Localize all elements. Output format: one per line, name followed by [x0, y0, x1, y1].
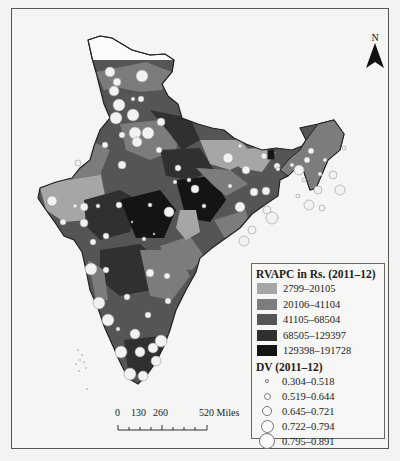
scale-tick-130: 130	[131, 407, 146, 418]
map-legend: RVAPC in Rs. (2011–12) 2799–20105 20106–…	[251, 263, 385, 439]
legend-symbol-4: 0.722–0.794	[256, 419, 380, 434]
legend-symbol-label: 0.304–0.518	[282, 376, 335, 387]
region-sikkim	[268, 150, 274, 159]
legend-symbol-1: 0.304–0.518	[256, 374, 380, 389]
scale-tick-0: 0	[115, 407, 120, 418]
legend-class-label: 2799–20105	[283, 283, 336, 294]
symbol-legend-title: DV (2011–12)	[256, 360, 380, 374]
legend-class-3: 41105–68504	[256, 312, 380, 328]
legend-swatch	[257, 345, 277, 356]
legend-class-4: 68505–129397	[256, 328, 380, 344]
legend-class-label: 20106–41104	[283, 299, 340, 310]
legend-class-1: 2799–20105	[256, 281, 380, 297]
legend-symbol-2: 0.519–0.644	[256, 389, 380, 404]
lakshadweep-islands	[75, 349, 88, 390]
legend-class-5: 129398–191728	[256, 343, 380, 359]
scale-tick-260: 260	[153, 407, 168, 418]
legend-class-label: 41105–68504	[283, 314, 340, 325]
legend-class-2: 20106–41104	[256, 297, 380, 313]
scale-bar: 0 130 260 520 Miles	[115, 407, 225, 419]
north-arrow: N	[363, 33, 387, 73]
legend-symbol-label: 0.722–0.794	[282, 421, 335, 432]
north-label: N	[363, 33, 387, 43]
legend-symbol-label: 0.519–0.644	[282, 391, 335, 402]
legend-symbol-label: 0.645–0.721	[282, 406, 335, 417]
circle-icon	[259, 433, 275, 449]
legend-swatch	[257, 330, 277, 341]
scale-bar-graphic	[118, 425, 207, 430]
choropleth-legend-title: RVAPC in Rs. (2011–12)	[256, 267, 380, 281]
legend-symbol-label: 0.795–0.891	[282, 436, 335, 447]
legend-swatch	[257, 314, 277, 325]
scale-tick-520: 520 Miles	[199, 407, 239, 418]
circle-icon	[262, 406, 272, 416]
legend-class-label: 129398–191728	[283, 345, 351, 356]
circle-icon	[265, 379, 269, 383]
circle-icon	[261, 420, 274, 433]
circle-icon	[264, 393, 271, 400]
legend-symbol-3: 0.645–0.721	[256, 404, 380, 419]
legend-swatch	[257, 283, 277, 294]
legend-swatch	[257, 299, 277, 310]
legend-symbol-5: 0.795–0.891	[256, 434, 380, 449]
legend-class-label: 68505–129397	[283, 330, 346, 341]
north-arrow-icon	[365, 43, 385, 69]
